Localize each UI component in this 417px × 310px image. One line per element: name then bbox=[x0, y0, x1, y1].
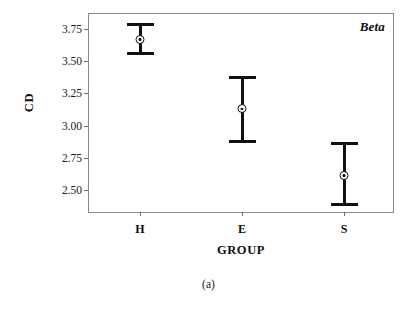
error-bar-lower-cap bbox=[229, 140, 256, 143]
y-axis-tick bbox=[84, 190, 89, 191]
y-axis-tick-label: 3.50 bbox=[62, 55, 82, 67]
y-axis-tick bbox=[84, 93, 89, 94]
error-bar-e bbox=[229, 14, 256, 214]
y-axis-tick bbox=[84, 29, 89, 30]
error-bar-s bbox=[331, 14, 358, 214]
x-axis-tick-label-s: S bbox=[341, 222, 348, 237]
panel-annotation-beta: Beta bbox=[360, 19, 385, 35]
y-axis-tick-label: 2.50 bbox=[62, 184, 82, 196]
figure-caption: (a) bbox=[0, 278, 417, 290]
x-axis-title: GROUP bbox=[88, 243, 394, 258]
mean-marker-s bbox=[340, 171, 349, 180]
error-bar-upper-cap bbox=[127, 23, 154, 26]
plot-area: Beta 3.753.503.253.002.752.50 HES bbox=[88, 13, 394, 213]
figure-error-bar-chart: CD Beta 3.753.503.253.002.752.50 HES GRO… bbox=[0, 0, 417, 310]
y-axis-tick-label: 3.75 bbox=[62, 23, 82, 35]
y-axis-tick bbox=[84, 61, 89, 62]
x-axis-tick-label-h: H bbox=[135, 222, 144, 237]
y-axis-tick bbox=[84, 126, 89, 127]
error-bar-lower-cap bbox=[127, 52, 154, 55]
mean-marker-e bbox=[238, 104, 247, 113]
y-axis-tick-label: 2.75 bbox=[62, 152, 82, 164]
error-bar-lower-cap bbox=[331, 203, 358, 206]
y-axis-title: CD bbox=[22, 86, 37, 120]
x-axis-tick-label-e: E bbox=[238, 222, 246, 237]
mean-marker-h bbox=[136, 35, 145, 44]
error-bar-upper-cap bbox=[331, 142, 358, 145]
y-axis-tick bbox=[84, 158, 89, 159]
error-bar-upper-cap bbox=[229, 76, 256, 79]
error-bar-h bbox=[127, 14, 154, 214]
y-axis-tick-label: 3.00 bbox=[62, 120, 82, 132]
y-axis-tick-label: 3.25 bbox=[62, 87, 82, 99]
